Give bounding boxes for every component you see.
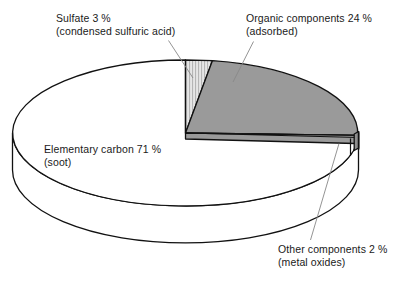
slice-label-organic-line1: Organic components 24 %: [246, 12, 372, 24]
slice-label-sulfate-line1: Sulfate 3 %: [56, 12, 111, 24]
slice-label-elementary-carbon-line1: Elementary carbon 71 %: [44, 143, 161, 155]
pie-chart-figure: Sulfate 3 % (condensed sulfuric acid) Or…: [0, 0, 413, 281]
slice-label-sulfate: Sulfate 3 % (condensed sulfuric acid): [56, 12, 175, 38]
slice-label-elementary-carbon: Elementary carbon 71 % (soot): [44, 143, 161, 169]
slice-label-sulfate-line2: (condensed sulfuric acid): [56, 25, 175, 38]
slice-label-organic: Organic components 24 % (adsorbed): [246, 12, 372, 38]
slice-label-other-components: Other components 2 % (metal oxides): [278, 243, 387, 269]
slice-label-other-components-line2: (metal oxides): [278, 256, 387, 269]
slice-label-elementary-carbon-line2: (soot): [44, 156, 161, 169]
slice-label-other-components-line1: Other components 2 %: [278, 243, 387, 255]
slice-label-organic-line2: (adsorbed): [246, 25, 372, 38]
pie-chart-graphic: [0, 0, 413, 281]
slice-organic-top: [186, 61, 358, 136]
